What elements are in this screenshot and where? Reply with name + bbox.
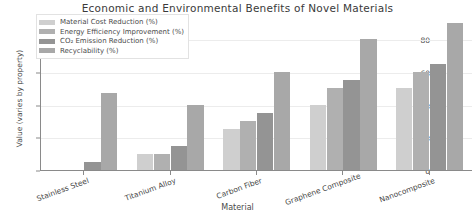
legend-swatch-icon [39,29,55,34]
legend-item[interactable]: Material Cost Reduction (%) [39,18,184,27]
gridline [41,73,472,74]
x-tick-mark [256,171,257,175]
legend-swatch-icon [39,48,55,53]
bar [137,154,153,170]
bar [274,72,290,170]
bar [187,105,203,170]
bar [101,93,117,170]
legend-item[interactable]: Recyclability (%) [39,46,184,55]
bar [343,80,359,170]
bar [171,146,187,170]
bar [413,72,429,170]
chart-figure: Economic and Environmental Benefits of N… [0,0,475,216]
x-tick-mark [170,171,171,175]
bar [84,162,100,170]
legend-label: Energy Efficiency Improvement (%) [60,28,184,36]
legend-swatch-icon [39,39,55,44]
legend-label: Recyclability (%) [60,47,118,55]
x-tick-mark [342,171,343,175]
legend-item[interactable]: CO₂ Emission Reduction (%) [39,37,184,46]
legend-label: CO₂ Emission Reduction (%) [60,37,158,45]
x-tick-mark [429,171,430,175]
y-axis-label: Value (varies by property) [15,24,24,174]
bar [447,23,463,170]
bar [154,154,170,170]
bar [327,88,343,170]
bar [223,129,239,170]
legend-label: Material Cost Reduction (%) [60,18,158,26]
chart-legend: Material Cost Reduction (%)Energy Effici… [36,14,189,59]
legend-item[interactable]: Energy Efficiency Improvement (%) [39,27,184,36]
legend-swatch-icon [39,20,55,25]
chart-title: Economic and Environmental Benefits of N… [0,2,475,14]
bar [430,64,446,170]
bar [257,113,273,170]
bar [396,88,412,170]
x-tick-mark [83,171,84,175]
bar [360,39,376,170]
bar [310,105,326,170]
bar [240,121,256,170]
x-axis-label: Material [0,203,475,212]
